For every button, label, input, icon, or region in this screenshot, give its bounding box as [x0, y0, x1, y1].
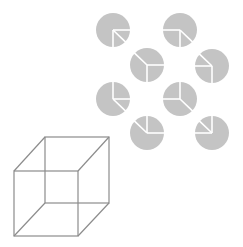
disc-6 [162, 81, 197, 116]
disc-5 [96, 81, 131, 116]
disc-8 [194, 115, 229, 150]
cube-edge-3 [14, 203, 45, 236]
disc-2 [162, 13, 197, 48]
cube-edge-4 [78, 203, 109, 236]
cube-edge-2 [78, 137, 109, 171]
disc-4 [194, 49, 229, 84]
necker-cube [14, 137, 109, 236]
cube-edge-1 [14, 137, 45, 171]
illusion-figure [0, 0, 243, 247]
disc-3 [130, 48, 165, 83]
disc-7 [130, 115, 165, 150]
disc-1 [96, 13, 131, 48]
subjective-cube-discs [96, 13, 229, 150]
